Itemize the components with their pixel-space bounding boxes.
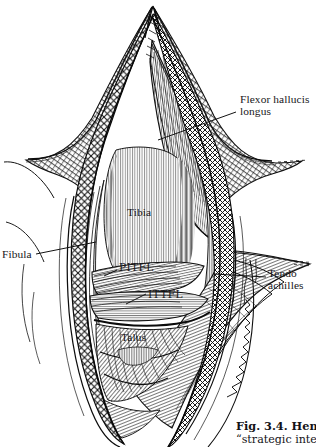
label-tibia: Tibia	[127, 206, 151, 218]
label-fhl-line2: longus	[240, 105, 271, 117]
label-talus: Talus	[121, 331, 146, 343]
label-flexor-hallucis-longus: Flexor hallucislongus	[240, 93, 310, 118]
label-ittfl: ITTFL	[148, 288, 183, 300]
label-tendo-line2: achilles	[268, 279, 304, 291]
anatomy-illustration	[0, 0, 316, 447]
label-fhl-line1: Flexor hallucis	[240, 93, 310, 105]
label-tendo-line1: Tendo	[268, 267, 297, 279]
label-pitfl: PITFL	[119, 261, 154, 273]
label-tendo-achilles: Tendoachilles	[268, 267, 304, 292]
label-fibula: Fibula	[2, 248, 32, 260]
caption-line-1: Fig. 3.4. Henry	[236, 419, 316, 433]
caption-line-2: “strategic interva	[236, 433, 316, 447]
figure-page: Flexor hallucislongus Fibula Tendoachill…	[0, 0, 316, 447]
figure-caption: Fig. 3.4. Henry “strategic interva	[236, 419, 316, 447]
